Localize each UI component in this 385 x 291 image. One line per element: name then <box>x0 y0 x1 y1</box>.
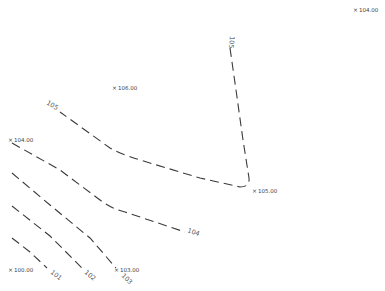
spot-marker-icon: × <box>8 136 13 143</box>
contour-label-105-vertical: 105 <box>227 36 236 49</box>
contour-line-105-upper <box>60 48 249 187</box>
contour-line-103 <box>12 173 116 268</box>
contour-label-104: 104 <box>186 226 200 238</box>
spot-marker-icon: × <box>114 266 119 273</box>
spot-elevation-100: × 100.00 <box>8 266 34 273</box>
contour-map: 105 105 104 103 102 101 × 104.00 × 106.0… <box>0 0 385 291</box>
spot-elevation-top-right: × 104.00 <box>353 6 379 13</box>
contour-line-102 <box>12 206 82 268</box>
spot-elevation-label: 104.00 <box>14 137 34 143</box>
contour-line-101 <box>12 238 47 268</box>
spot-marker-icon: × <box>252 187 257 194</box>
spot-elevation-103: × 103.00 <box>114 266 140 273</box>
spot-elevation-label: 103.00 <box>120 267 140 273</box>
contour-label-101: 101 <box>49 268 64 282</box>
contour-line-104 <box>12 143 185 232</box>
spot-elevation-label: 100.00 <box>14 267 34 273</box>
spot-marker-icon: × <box>112 84 117 91</box>
spot-marker-icon: × <box>353 6 358 13</box>
spot-elevation-label: 104.00 <box>359 7 379 13</box>
spot-elevation-106: × 106.00 <box>112 84 138 91</box>
contour-label-102: 102 <box>83 268 98 282</box>
contour-label-105: 105 <box>45 99 60 112</box>
spot-elevation-105: × 105.00 <box>252 187 278 194</box>
spot-elevation-label: 106.00 <box>118 85 138 91</box>
spot-elevation-label: 105.00 <box>258 188 278 194</box>
spot-elevation-104-left: × 104.00 <box>8 136 34 143</box>
spot-marker-icon: × <box>8 266 13 273</box>
contour-label-103: 103 <box>120 272 134 286</box>
